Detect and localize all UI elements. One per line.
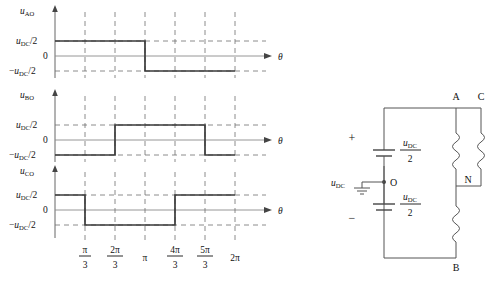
capacitor-lower-value: uDC 2: [400, 192, 421, 218]
node-O-label: O: [390, 177, 397, 188]
circuit-diagram: + − uDC uDC 2 uDC 2: [331, 91, 485, 273]
xtick-1: 2π 3: [107, 245, 123, 270]
uAO-y-axis-arrowhead: [52, 5, 58, 12]
uCO-theta-arrowhead: [264, 207, 272, 213]
node-A-label: A: [452, 91, 460, 102]
uAO-theta-arrowhead: [264, 53, 272, 59]
source-minus-sign: −: [349, 211, 356, 225]
source-udc-label: uDC: [331, 178, 346, 189]
uAO-pos-level-label: uDC/2: [16, 36, 38, 47]
xtick-2: π: [143, 253, 148, 263]
uBO-theta-label: θ: [278, 136, 283, 146]
uAO-zero-level-label: 0: [43, 51, 48, 61]
uCO-neg-level-label: −uDC/2: [9, 220, 36, 231]
uCO-theta-label: θ: [278, 206, 283, 216]
xtick-3-denominator: 3: [173, 260, 178, 270]
xtick-4: 5π 3: [197, 245, 213, 270]
uBO-y-axis-arrowhead: [52, 89, 58, 96]
uBO-zero-level-label: 0: [43, 135, 48, 145]
capacitor-upper-numerator: uDC: [403, 138, 418, 149]
xtick-1-denominator: 3: [113, 260, 118, 270]
uCO-pos-level-label: uDC/2: [16, 190, 38, 201]
xtick-2-label: π: [143, 253, 148, 263]
capacitor-upper-value: uDC 2: [400, 138, 421, 164]
source-plus-sign: +: [349, 131, 356, 145]
uAO-theta-label: θ: [278, 52, 283, 62]
waveform-panel-uAO: uAO θ uDC/2 0 −uDC/2: [9, 5, 283, 78]
uBO-neg-level-label: −uDC/2: [9, 150, 36, 161]
uAO-neg-level-label: −uDC/2: [9, 66, 36, 77]
x-axis-tick-labels: π 3 2π 3 π 4π 3 5π: [79, 245, 240, 270]
uAO-signal-label: uAO: [20, 6, 35, 17]
uCO-signal-label: uCO: [20, 166, 34, 177]
uCO-y-axis-arrowhead: [52, 165, 58, 172]
xtick-3-numerator: 4π: [170, 245, 180, 255]
node-B-label: B: [453, 262, 460, 273]
phaseA-inductor-coil: [453, 133, 460, 169]
waveform-and-circuit-figure: uAO θ uDC/2 0 −uDC/2: [0, 0, 492, 281]
xtick-5-label: 2π: [230, 253, 240, 263]
xtick-0-denominator: 3: [83, 260, 88, 270]
xtick-1-numerator: 2π: [110, 245, 120, 255]
node-C-label: C: [478, 91, 485, 102]
xtick-4-numerator: 5π: [200, 245, 210, 255]
waveform-panel-uCO: uCO θ uDC/2 0 −uDC/2: [9, 165, 283, 240]
waveform-panel-uBO: uBO θ uDC/2 0 −uDC/2: [9, 89, 283, 162]
xtick-3: 4π 3: [167, 245, 183, 270]
xtick-4-denominator: 3: [203, 260, 208, 270]
xtick-5: 2π: [230, 253, 240, 263]
phaseC-inductor-coil: [478, 133, 485, 169]
capacitor-lower-numerator: uDC: [403, 192, 418, 203]
figure-root: uAO θ uDC/2 0 −uDC/2: [0, 0, 492, 281]
uBO-signal-label: uBO: [20, 90, 34, 101]
capacitor-lower-denominator: 2: [408, 208, 413, 218]
capacitor-upper-denominator: 2: [408, 154, 413, 164]
phaseB-inductor-coil: [453, 206, 460, 242]
uCO-zero-level-label: 0: [43, 205, 48, 215]
uBO-pos-level-label: uDC/2: [16, 120, 38, 131]
node-N-label: N: [464, 174, 471, 185]
xtick-0-numerator: π: [83, 245, 88, 255]
uBO-theta-arrowhead: [264, 137, 272, 143]
xtick-0: π 3: [79, 245, 91, 270]
